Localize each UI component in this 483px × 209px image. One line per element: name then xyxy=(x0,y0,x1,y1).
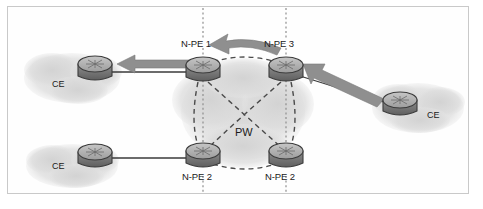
diagram-canvas xyxy=(0,0,483,209)
router-ce-bottom-left[interactable] xyxy=(78,144,112,167)
router-ce-right[interactable] xyxy=(383,92,417,115)
router-ce-top-left[interactable] xyxy=(78,56,112,80)
network-diagram-figure: N-PE 1 N-PE 3 N-PE 2 N-PE 2 CE CE CE PW xyxy=(0,0,483,209)
arrow-ce-right-in xyxy=(303,64,384,107)
label-ce-bottom-left: CE xyxy=(52,162,64,171)
label-ce-right: CE xyxy=(427,111,439,120)
label-pw: PW xyxy=(235,127,253,138)
label-ce-top-left: CE xyxy=(52,80,64,89)
label-n-pe-2-right: N-PE 2 xyxy=(265,172,295,182)
router-n-pe-1[interactable] xyxy=(186,57,220,81)
router-n-pe-2-left[interactable] xyxy=(186,143,220,167)
label-n-pe-1: N-PE 1 xyxy=(181,39,211,49)
label-n-pe-2-left: N-PE 2 xyxy=(182,172,212,182)
router-n-pe-2-right[interactable] xyxy=(269,143,303,167)
label-n-pe-3: N-PE 3 xyxy=(264,39,294,49)
router-n-pe-3[interactable] xyxy=(269,57,303,81)
